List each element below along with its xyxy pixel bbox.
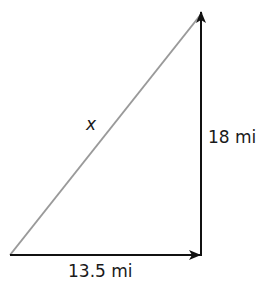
hypotenuse-label: x: [86, 116, 96, 133]
vertical-leg-label: 18 mi: [208, 129, 256, 146]
hypotenuse-line: [10, 13, 202, 255]
horizontal-leg-label: 13.5 mi: [68, 263, 133, 280]
triangle-diagram: x 18 mi 13.5 mi: [0, 0, 272, 293]
